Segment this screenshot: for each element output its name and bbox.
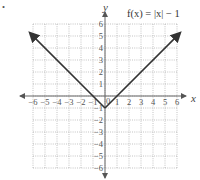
x-tick-label: 2 — [127, 97, 131, 107]
x-axis-label: x — [190, 92, 196, 104]
chart-title: f(x) = |x| − 1 — [127, 8, 180, 20]
x-tick-label: 6 — [175, 97, 179, 107]
y-tick-label: −3 — [94, 127, 103, 137]
y-tick-label: 5 — [99, 31, 103, 41]
y-tick-label: 6 — [99, 19, 103, 29]
x-tick-label: 3 — [139, 97, 143, 107]
y-tick-label: 3 — [99, 55, 103, 65]
y-axis-label: y — [102, 1, 108, 13]
stray-mark: • — [2, 2, 5, 12]
y-tick-label: 2 — [99, 67, 103, 77]
x-tick-label: −2 — [76, 97, 85, 107]
y-tick-label: −5 — [94, 151, 103, 161]
x-tick-label: −6 — [28, 97, 37, 107]
y-tick-label: −6 — [94, 163, 103, 173]
x-tick-label: −5 — [40, 97, 49, 107]
x-tick-label: −4 — [52, 97, 62, 107]
y-tick-label: 1 — [99, 79, 103, 89]
x-tick-label: −3 — [64, 97, 73, 107]
y-tick-label: −2 — [94, 115, 103, 125]
x-tick-label: 5 — [163, 97, 167, 107]
y-tick-label: −4 — [94, 139, 104, 149]
x-tick-label: 4 — [151, 97, 156, 107]
y-tick-label: 4 — [99, 43, 104, 53]
graph: −6−5−4−3−2−1123456654321−1−2−3−4−5−60 y … — [0, 0, 200, 180]
